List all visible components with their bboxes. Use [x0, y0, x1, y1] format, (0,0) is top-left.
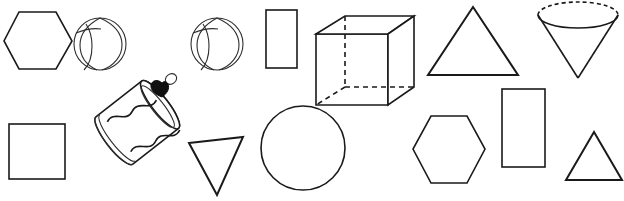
triangle-icon [566, 132, 622, 180]
hexagon-icon [4, 12, 72, 69]
shapes-worksheet-canvas: Line drawings of geometric shapes and ob… [0, 0, 624, 201]
triangle-down-icon [189, 137, 243, 195]
ball-icon [191, 18, 243, 70]
cube-icon [316, 16, 414, 105]
shapes-drawing-surface [0, 0, 624, 201]
square-icon [9, 124, 65, 179]
triangle-icon [428, 7, 518, 75]
rectangle-icon [502, 89, 545, 167]
circle-icon [261, 106, 345, 190]
cone-icon [538, 2, 618, 78]
hexagon-icon [413, 116, 485, 183]
soda-can-icon [90, 71, 187, 171]
rectangle-icon [266, 10, 297, 68]
ball-icon [74, 18, 126, 70]
